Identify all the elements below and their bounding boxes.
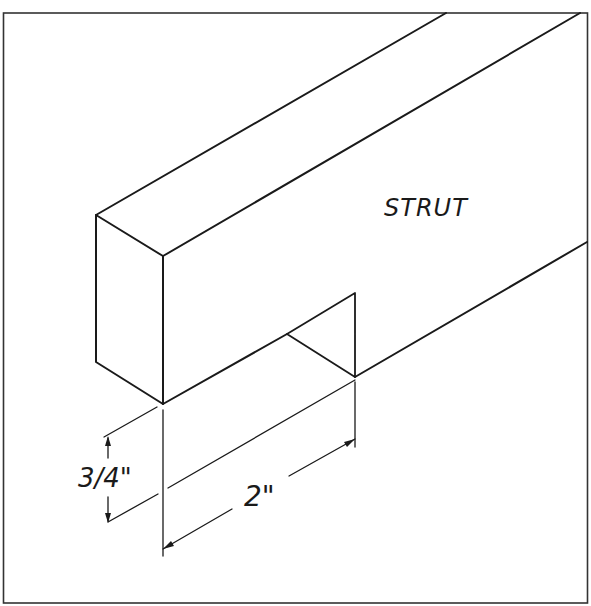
width-arrow-left (163, 541, 174, 549)
width-dimension-label: 2" (244, 480, 275, 513)
strut-label: STRUT (384, 194, 469, 222)
bottom-edge-left (163, 334, 287, 404)
notch (287, 293, 355, 377)
depth-dimension-label: 3/4" (78, 463, 132, 493)
depth-extension-bottom (108, 494, 158, 522)
strut-notch-drawing: STRUT 3/4" 2" (0, 0, 591, 606)
end-face (96, 215, 163, 404)
depth-extension-top (104, 407, 157, 437)
top-front-edge (163, 13, 580, 256)
width-dim-line-left (163, 509, 232, 549)
width-arrow-right (344, 439, 355, 447)
depth-arrow-up (105, 436, 111, 446)
width-dim-line-right (289, 439, 355, 476)
strut-body (96, 13, 587, 404)
top-back-edge (96, 13, 446, 215)
dimensions (104, 380, 355, 556)
figure-frame (4, 13, 588, 603)
arrowheads (105, 436, 355, 549)
depth-extension-bottom-cont (168, 380, 355, 488)
bottom-edge-right (355, 242, 587, 377)
